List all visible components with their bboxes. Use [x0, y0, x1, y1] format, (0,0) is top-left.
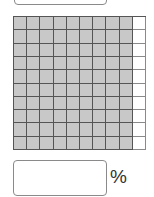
grid-cell-shaded: [120, 97, 133, 110]
grid-cell-shaded: [54, 17, 67, 30]
grid-cell-shaded: [67, 84, 80, 97]
grid-cell-shaded: [80, 44, 93, 57]
grid-cell-shaded: [67, 30, 80, 43]
grid-cell-shaded: [14, 44, 27, 57]
grid-cell-shaded: [80, 30, 93, 43]
grid-cell-shaded: [54, 57, 67, 70]
grid-cell-shaded: [106, 70, 119, 83]
grid-cell-shaded: [40, 70, 53, 83]
grid-cell-empty: [133, 44, 146, 57]
grid-cell-shaded: [120, 137, 133, 150]
grid-cell-shaded: [54, 44, 67, 57]
grid-cell-shaded: [40, 17, 53, 30]
grid-cell-shaded: [14, 123, 27, 136]
grid-cell-shaded: [27, 70, 40, 83]
grid-cell-empty: [133, 70, 146, 83]
grid-cell-shaded: [120, 70, 133, 83]
grid-cell-shaded: [14, 70, 27, 83]
grid-cell-shaded: [54, 97, 67, 110]
grid-cell-shaded: [93, 44, 106, 57]
grid-cell-shaded: [120, 57, 133, 70]
grid-cell-empty: [133, 97, 146, 110]
grid-cell-shaded: [27, 84, 40, 97]
hundred-grid: [13, 16, 146, 150]
grid-cell-shaded: [14, 110, 27, 123]
grid-cell-shaded: [106, 137, 119, 150]
grid-cell-shaded: [14, 97, 27, 110]
grid-cell-shaded: [120, 44, 133, 57]
grid-cell-shaded: [106, 84, 119, 97]
grid-cell-shaded: [106, 123, 119, 136]
grid-cell-shaded: [80, 123, 93, 136]
grid-cell-shaded: [93, 137, 106, 150]
grid-cell-shaded: [93, 84, 106, 97]
grid-cell-shaded: [40, 97, 53, 110]
grid-cell-shaded: [40, 123, 53, 136]
grid-cell-shaded: [93, 123, 106, 136]
grid-cell-shaded: [93, 97, 106, 110]
grid-cell-shaded: [40, 110, 53, 123]
grid-cell-shaded: [106, 44, 119, 57]
grid-cell-empty: [133, 57, 146, 70]
grid-cell-shaded: [67, 137, 80, 150]
grid-cell-empty: [133, 123, 146, 136]
grid-cell-shaded: [27, 44, 40, 57]
grid-cell-shaded: [14, 30, 27, 43]
grid-cell-shaded: [54, 30, 67, 43]
grid-cell-empty: [133, 137, 146, 150]
grid-cell-shaded: [14, 137, 27, 150]
grid-cell-shaded: [40, 84, 53, 97]
grid-cell-shaded: [106, 97, 119, 110]
grid-cell-shaded: [120, 30, 133, 43]
grid-cell-shaded: [93, 70, 106, 83]
grid-cell-shaded: [40, 30, 53, 43]
grid-cell-shaded: [27, 17, 40, 30]
grid-cell-shaded: [67, 123, 80, 136]
grid-cell-shaded: [80, 84, 93, 97]
grid-cell-shaded: [27, 137, 40, 150]
grid-cell-shaded: [120, 110, 133, 123]
grid-cell-shaded: [93, 110, 106, 123]
grid-cell-shaded: [14, 57, 27, 70]
grid-cell-shaded: [106, 30, 119, 43]
grid-cell-shaded: [27, 57, 40, 70]
grid-cell-shaded: [54, 84, 67, 97]
grid-cell-shaded: [93, 17, 106, 30]
grid-cell-shaded: [54, 70, 67, 83]
grid-cell-shaded: [67, 110, 80, 123]
grid-cell-shaded: [106, 17, 119, 30]
grid-cell-empty: [133, 17, 146, 30]
grid-cell-shaded: [54, 110, 67, 123]
grid-cell-empty: [133, 84, 146, 97]
grid-cell-shaded: [67, 57, 80, 70]
grid-cell-shaded: [40, 57, 53, 70]
grid-cell-shaded: [27, 110, 40, 123]
grid-cell-empty: [133, 30, 146, 43]
grid-cell-shaded: [67, 44, 80, 57]
grid-cell-shaded: [80, 97, 93, 110]
grid-cell-shaded: [67, 97, 80, 110]
grid-cell-shaded: [80, 137, 93, 150]
percent-sign-label: %: [110, 166, 127, 188]
grid-cell-shaded: [93, 57, 106, 70]
grid-cell-shaded: [40, 137, 53, 150]
grid-cell-shaded: [27, 97, 40, 110]
percent-answer-box[interactable]: [13, 160, 107, 196]
grid-cell-shaded: [120, 84, 133, 97]
grid-cell-shaded: [14, 17, 27, 30]
grid-cell-shaded: [106, 57, 119, 70]
grid-cell-shaded: [80, 70, 93, 83]
grid-cell-shaded: [54, 137, 67, 150]
grid-cell-shaded: [120, 123, 133, 136]
grid-cell-shaded: [80, 57, 93, 70]
grid-cell-shaded: [80, 17, 93, 30]
top-answer-box[interactable]: [14, 0, 107, 5]
grid-cell-shaded: [120, 17, 133, 30]
grid-cell-shaded: [27, 123, 40, 136]
grid-cell-shaded: [27, 30, 40, 43]
grid-cell-shaded: [93, 30, 106, 43]
grid-cell-shaded: [106, 110, 119, 123]
grid-cell-shaded: [40, 44, 53, 57]
grid-cell-shaded: [54, 123, 67, 136]
grid-cell-empty: [133, 110, 146, 123]
